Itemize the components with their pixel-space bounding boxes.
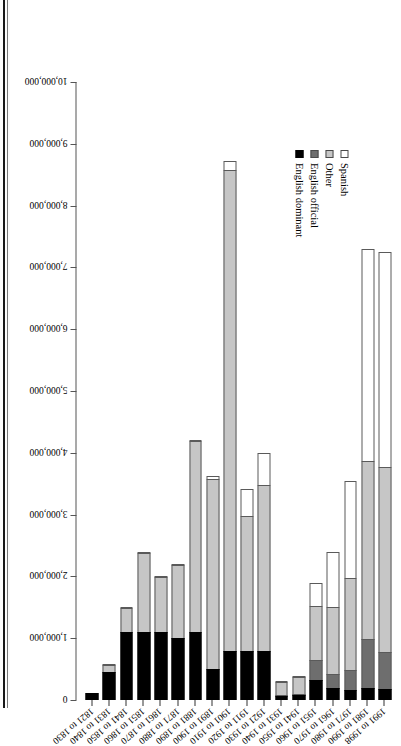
category-tick [349, 700, 350, 706]
bar-segment-english_dom [85, 693, 98, 700]
category-tick [383, 700, 384, 706]
legend-swatch-other [325, 150, 333, 158]
bar-segment-other [292, 677, 305, 696]
bar-segment-spanish [378, 252, 391, 468]
category-tick [177, 700, 178, 706]
bar-segment-spanish [326, 552, 339, 608]
value-tick-label: 7,000,000 [29, 261, 67, 271]
bar-segment-other [154, 577, 167, 633]
category-tick [366, 700, 367, 706]
bar-segment-other [344, 578, 357, 671]
bar-segment-english_off [344, 670, 357, 691]
legend-label: Spanish [339, 163, 350, 196]
bar-1891-to-1900 [206, 474, 219, 700]
legend-item: Other [322, 150, 336, 237]
bar-segment-spanish [309, 583, 322, 606]
bar-1961-to-1970 [326, 549, 339, 700]
value-tick-label: 5,000,000 [29, 385, 67, 395]
bar-1991-to-1998 [378, 249, 391, 700]
category-tick [91, 700, 92, 706]
bar-1981-to-1990 [361, 246, 374, 700]
bar-segment-other [240, 516, 253, 652]
bar-segment-english_dom [223, 651, 236, 700]
value-tick-label: 6,000,000 [29, 323, 67, 333]
category-tick [228, 700, 229, 706]
category-tick [263, 700, 264, 706]
legend-item: English dominant [292, 150, 306, 237]
bar-segment-english_dom [292, 695, 305, 700]
bar-segment-spanish [257, 453, 270, 486]
category-tick [142, 700, 143, 706]
bar-1861-to-1870 [154, 576, 167, 700]
bar-segment-spanish [361, 249, 374, 462]
legend-label: English official [309, 163, 320, 228]
value-tick [70, 700, 76, 701]
bar-segment-other [361, 461, 374, 640]
legend-item: English official [307, 150, 321, 237]
value-tick-label: 8,000,000 [29, 200, 67, 210]
bar-segment-english_dom [361, 688, 374, 700]
value-tick [70, 329, 76, 330]
bar-segment-english_off [326, 674, 339, 689]
value-tick [70, 206, 76, 207]
bar-segment-english_dom [326, 688, 339, 700]
legend-swatch-english-official [310, 150, 318, 158]
bar-segment-english_dom [309, 680, 322, 700]
bar-segment-english_dom [137, 632, 150, 700]
bar-segment-other [309, 606, 322, 662]
bar-1901-to-1910 [223, 159, 236, 700]
value-tick [70, 515, 76, 516]
bar-1841-to-1850 [120, 607, 133, 700]
bar-segment-spanish [240, 489, 253, 517]
category-tick [194, 700, 195, 706]
value-tick-label: 1,000,000 [29, 632, 67, 642]
bar-segment-other [171, 565, 184, 639]
bar-segment-english_dom [154, 632, 167, 700]
bar-segment-english_dom [102, 672, 115, 700]
value-tick-label: 3,000,000 [29, 509, 67, 519]
bar-1941-to-1950 [292, 673, 305, 700]
value-tick-label: 10,000,000 [24, 76, 67, 86]
bar-segment-english_dom [344, 690, 357, 700]
category-tick [332, 700, 333, 706]
category-tick [297, 700, 298, 706]
category-tick [246, 700, 247, 706]
bar-segment-other [189, 441, 202, 633]
category-tick [125, 700, 126, 706]
bar-segment-english_dom [378, 689, 391, 700]
bar-1821-to-1830 [85, 693, 98, 700]
value-tick [70, 144, 76, 145]
value-tick [70, 453, 76, 454]
value-tick [70, 267, 76, 268]
bar-segment-other [137, 553, 150, 633]
legend-swatch-spanish [340, 150, 348, 158]
bar-segment-english_dom [189, 632, 202, 700]
value-tick [70, 576, 76, 577]
bar-segment-other [206, 479, 219, 671]
bar-segment-other [257, 485, 270, 652]
value-tick-label: 9,000,000 [29, 138, 67, 148]
category-tick [211, 700, 212, 706]
value-tick-label: 2,000,000 [29, 570, 67, 580]
bar-segment-english_dom [257, 651, 270, 700]
bar-1851-to-1860 [137, 551, 150, 700]
bar-1831-to-1840 [102, 664, 115, 700]
chart-legend: SpanishOtherEnglish officialEnglish domi… [291, 150, 351, 237]
bar-1951-to-1960 [309, 580, 322, 700]
bar-segment-other [378, 467, 391, 652]
bar-segment-other [275, 682, 288, 696]
bar-segment-other [223, 170, 236, 652]
legend-label: English dominant [294, 163, 305, 237]
bar-segment-english_off [378, 652, 391, 690]
bar-segment-english_dom [120, 632, 133, 700]
bar-segment-english_dom [275, 696, 288, 700]
bar-1871-to-1880 [171, 563, 184, 700]
bar-segment-english_off [361, 639, 374, 688]
category-tick [315, 700, 316, 706]
bar-1921-to-1930 [257, 451, 270, 700]
bar-segment-english_dom [240, 651, 253, 700]
bar-segment-spanish [344, 481, 357, 580]
legend-item: Spanish [337, 150, 351, 237]
category-tick [160, 700, 161, 706]
